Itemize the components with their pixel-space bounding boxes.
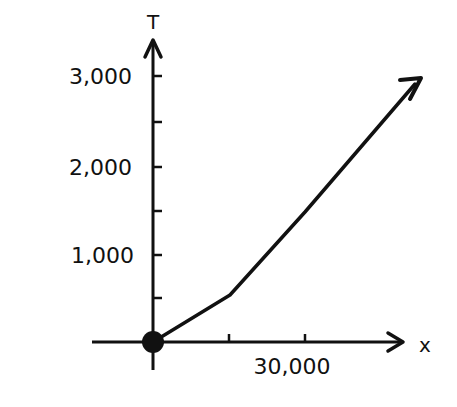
x-axis-label: x [419,333,431,357]
series-t-of-x [142,78,421,353]
y-axis: 3,000 2,000 1,000 T [69,10,162,370]
y-tick-label-3000: 3,000 [69,64,132,89]
y-axis-label: T [146,10,160,34]
x-tick-label-30000: 30,000 [254,354,331,379]
data-line [153,84,415,342]
origin-point-marker [142,331,164,353]
y-tick-label-1000: 1,000 [71,243,134,268]
chart-canvas: 30,000 x 3,000 2,000 1,000 T [0,0,457,407]
y-tick-label-2000: 2,000 [69,155,132,180]
